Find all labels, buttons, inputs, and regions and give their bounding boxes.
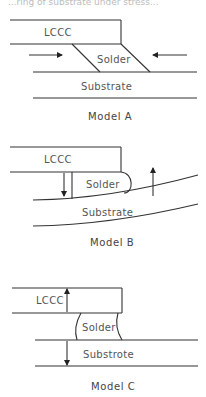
solder-fillet — [121, 172, 131, 193]
substrate-label: Substrate — [81, 81, 132, 92]
solder-joint-models-diagram: ...ring of substrate under stress... LCC… — [0, 0, 206, 397]
model-caption: Model C — [91, 381, 135, 392]
solder-right-meniscus — [117, 313, 122, 340]
substrate-label: Substrate — [82, 207, 133, 218]
model-caption: Model B — [90, 237, 134, 248]
substrate-label: Substrote — [83, 349, 134, 360]
header-fragment: ...ring of substrate under stress... — [8, 0, 159, 7]
lccc-label: LCCC — [44, 154, 72, 165]
lccc-label: LCCC — [44, 27, 72, 38]
model-c: LCCC Solder Substrote Model C — [12, 288, 198, 392]
solder-label: Solder — [86, 179, 120, 190]
solder-left-slope — [72, 44, 100, 72]
lccc-label: LCCC — [36, 295, 64, 306]
solder-label: Solder — [97, 54, 131, 65]
model-a: LCCC Solder Substrate Model A — [10, 20, 197, 122]
model-caption: Model A — [88, 111, 132, 122]
model-b: LCCC Solder Substrate Model B — [10, 147, 198, 248]
solder-label: Solder — [82, 322, 116, 333]
solder-left-meniscus — [76, 313, 81, 340]
